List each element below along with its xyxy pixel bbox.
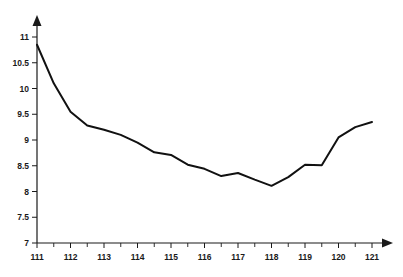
x-tick-label: 117 [231, 252, 245, 262]
x-axis-arrow-icon [382, 239, 393, 248]
x-tick-label: 111 [30, 252, 44, 262]
data-series-line [37, 45, 372, 186]
x-tick-label: 118 [265, 252, 279, 262]
x-tick-label: 121 [365, 252, 379, 262]
x-tick-label-group: 111112113114115116117118119120121 [30, 252, 379, 262]
y-tick-label: 9.5 [17, 109, 29, 119]
y-tick-label: 7 [24, 238, 29, 248]
y-tick-label: 10.5 [12, 58, 29, 68]
y-tick-label: 8 [24, 187, 29, 197]
y-axis-arrow-icon [33, 15, 42, 26]
x-tick-label: 112 [64, 252, 78, 262]
y-tick-label: 11 [20, 32, 29, 42]
x-tick-label: 114 [131, 252, 145, 262]
y-tick-label: 7.5 [17, 212, 29, 222]
y-tick-label-group: 77.588.599.51010.511 [12, 32, 29, 248]
y-tick-label: 9 [24, 135, 29, 145]
line-chart: 77.588.599.51010.511 1111121131141151161… [0, 0, 403, 277]
x-tick-label: 116 [198, 252, 212, 262]
x-tick-label: 115 [164, 252, 178, 262]
y-tick-label: 10 [20, 84, 30, 94]
x-tick-label: 119 [298, 252, 312, 262]
x-tick-label: 113 [97, 252, 111, 262]
y-tick-label: 8.5 [17, 161, 29, 171]
x-axis: 111112113114115116117118119120121 [30, 239, 393, 263]
y-tick-group [32, 37, 37, 243]
x-tick-label: 120 [331, 252, 345, 262]
chart-plot-area: 77.588.599.51010.511 1111121131141151161… [0, 0, 403, 277]
y-axis: 77.588.599.51010.511 [12, 15, 41, 248]
